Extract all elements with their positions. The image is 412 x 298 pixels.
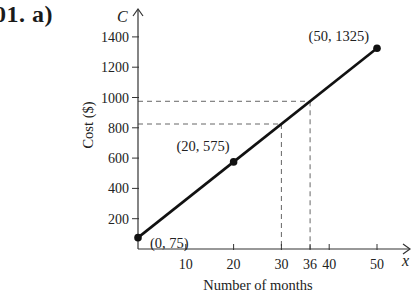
y-tick-label: 600 bbox=[108, 151, 129, 166]
x-tick-label: 10 bbox=[179, 257, 193, 272]
cost-line bbox=[138, 48, 377, 237]
y-tick-label: 1000 bbox=[101, 91, 129, 106]
data-line bbox=[138, 48, 377, 237]
x-tick-label: 36 bbox=[303, 257, 317, 272]
data-point-label: (20, 575) bbox=[176, 138, 229, 155]
y-tick-label: 400 bbox=[108, 181, 129, 196]
y-tick-label: 1200 bbox=[101, 60, 129, 75]
tick-marks: 102030364050200400600800100012001400 bbox=[101, 30, 384, 272]
y-tick-label: 800 bbox=[108, 121, 129, 136]
data-point bbox=[373, 44, 381, 52]
y-tick-label: 200 bbox=[108, 212, 129, 227]
x-tick-label: 20 bbox=[227, 257, 241, 272]
cost-line-chart: 102030364050200400600800100012001400 (0,… bbox=[0, 0, 412, 298]
data-point-label: (50, 1325) bbox=[309, 28, 370, 45]
y-tick-label: 1400 bbox=[101, 30, 129, 45]
x-axis-title: Number of months bbox=[203, 277, 313, 293]
data-points: (0, 75)(20, 575)(50, 1325) bbox=[134, 28, 381, 251]
dashed-reference-lines bbox=[138, 101, 310, 249]
x-tick-label: 30 bbox=[274, 257, 288, 272]
x-tick-label: 40 bbox=[322, 257, 336, 272]
y-axis-title: Cost ($) bbox=[80, 101, 97, 148]
data-point bbox=[230, 158, 238, 166]
data-point-label: (0, 75) bbox=[150, 235, 189, 252]
y-axis-variable: C bbox=[117, 8, 128, 25]
x-axis-variable: x bbox=[401, 252, 409, 269]
x-tick-label: 50 bbox=[370, 257, 384, 272]
data-point bbox=[134, 234, 142, 242]
